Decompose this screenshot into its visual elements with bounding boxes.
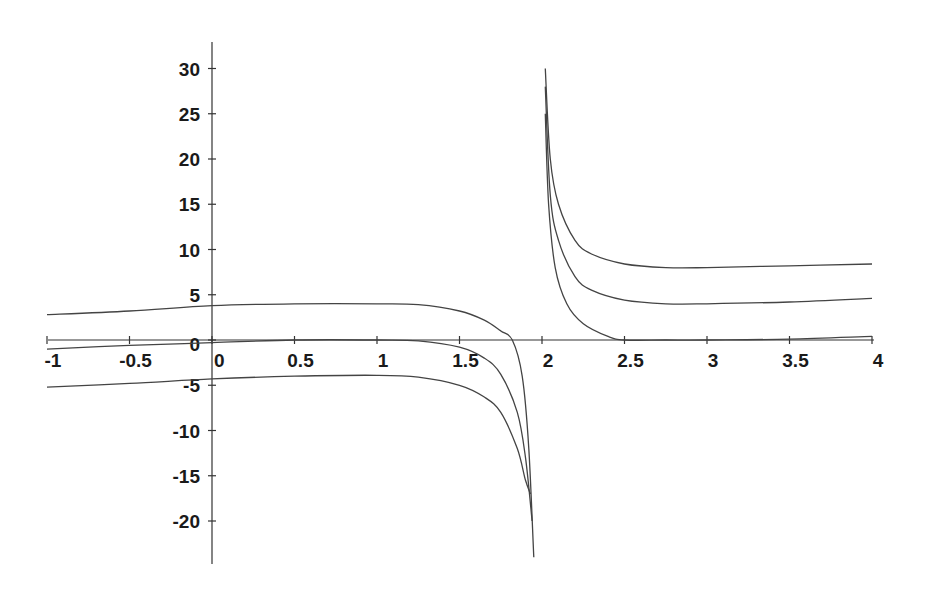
y-tick-label: -20	[173, 511, 200, 532]
curve-lower-right	[545, 114, 872, 341]
curve-lower-left	[47, 375, 531, 494]
x-tick-label: 4	[873, 350, 884, 371]
y-tick-label: 15	[179, 194, 201, 215]
curve-upper-left	[47, 304, 534, 558]
x-tick-label: 1	[378, 350, 389, 371]
chart: -1-0.500.511.522.533.54 302520151050-5-1…	[0, 0, 926, 595]
y-tick-label: 25	[179, 104, 201, 125]
y-tick-label: 0	[189, 334, 200, 355]
x-tick-label: 0.5	[287, 350, 314, 371]
curve-middle-right	[545, 87, 872, 305]
x-tick-label: 3.5	[782, 350, 809, 371]
y-tick-label: 5	[189, 285, 200, 306]
y-tick-label: 20	[179, 149, 200, 170]
y-tick-label: 10	[179, 240, 200, 261]
x-tick-label: 2.5	[617, 350, 644, 371]
ticks	[47, 69, 872, 522]
x-tick-label: 2	[543, 350, 554, 371]
y-tick-label: -15	[173, 466, 201, 487]
x-tick-label: -1	[45, 350, 62, 371]
y-tick-labels: 302520151050-5-10-15-20	[173, 59, 201, 533]
y-tick-label: -10	[173, 421, 200, 442]
curve-upper-right	[545, 69, 872, 268]
y-tick-label: 30	[179, 59, 200, 80]
y-tick-label: -5	[183, 375, 200, 396]
curves	[47, 69, 872, 558]
x-tick-labels: -1-0.500.511.522.533.54	[45, 350, 884, 371]
x-tick-label: 3	[708, 350, 719, 371]
x-tick-label: -0.5	[119, 350, 152, 371]
x-tick-label: 0	[214, 350, 225, 371]
